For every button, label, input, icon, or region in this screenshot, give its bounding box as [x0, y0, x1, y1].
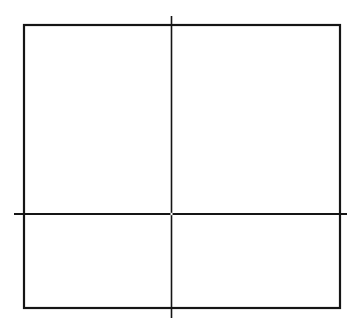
intersection-gap — [170, 213, 172, 215]
outer-rectangle — [24, 25, 340, 308]
diagram-canvas — [0, 0, 361, 330]
diagram-svg — [0, 0, 361, 330]
